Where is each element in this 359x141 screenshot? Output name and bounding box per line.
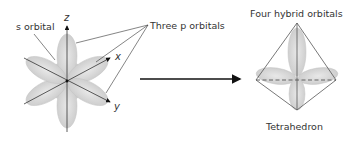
p-orbitals-label: Three p orbitals xyxy=(149,20,225,31)
z-axis-label: z xyxy=(63,12,70,23)
nucleus-dot xyxy=(66,80,69,83)
tetrahedron-label: Tetrahedron xyxy=(265,121,323,132)
p-orbital-leader-line-y xyxy=(106,25,148,93)
hybrid-orbitals-label: Four hybrid orbitals xyxy=(250,8,343,19)
p-orbital-leader-line-z xyxy=(76,25,148,43)
s-and-p-orbitals-figure: z x y s orbital Three p orbitals xyxy=(16,12,225,132)
y-axis-label: y xyxy=(113,101,121,112)
s-orbital-label: s orbital xyxy=(16,21,55,32)
sp3-hybrid-tetrahedron-figure: Four hybrid orbitals Tetrahedron xyxy=(250,8,343,132)
p-orbital-leader-line-x xyxy=(96,25,148,62)
x-axis-label: x xyxy=(114,51,121,62)
s-orbital-leader-line xyxy=(34,34,55,60)
sp3-hybridization-diagram: z x y s orbital Three p orbitals Four hy… xyxy=(0,0,359,141)
